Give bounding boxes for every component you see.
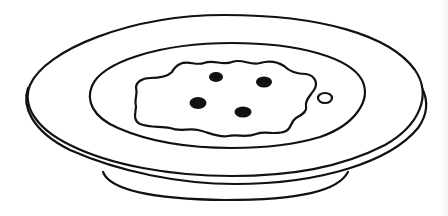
edge-strip bbox=[440, 0, 448, 216]
food-spot bbox=[235, 107, 252, 118]
small-ring bbox=[318, 93, 332, 103]
food-spot bbox=[190, 97, 207, 109]
food-spot bbox=[209, 72, 223, 82]
plate-illustration bbox=[0, 0, 448, 216]
food-spot bbox=[256, 77, 272, 88]
